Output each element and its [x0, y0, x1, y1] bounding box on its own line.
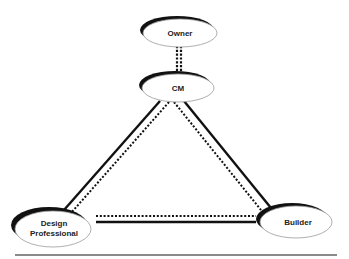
node-builder: Builder — [256, 203, 332, 238]
node-design-label-line1: Design — [41, 219, 68, 228]
edge-owner-cm — [177, 46, 181, 74]
edge-cm-design — [64, 101, 169, 213]
relationship-diagram: Owner CM Design Professional Builder — [0, 0, 349, 259]
node-owner-label: Owner — [168, 29, 193, 38]
node-owner: Owner — [140, 16, 217, 47]
edge-design-builder — [96, 216, 256, 222]
node-cm: CM — [139, 71, 214, 102]
node-builder-label: Builder — [284, 218, 312, 227]
edge-cm-builder — [174, 101, 271, 210]
node-design-label-line2: Professional — [30, 229, 78, 238]
node-design-professional: Design Professional — [11, 207, 91, 247]
node-cm-label: CM — [172, 84, 185, 93]
